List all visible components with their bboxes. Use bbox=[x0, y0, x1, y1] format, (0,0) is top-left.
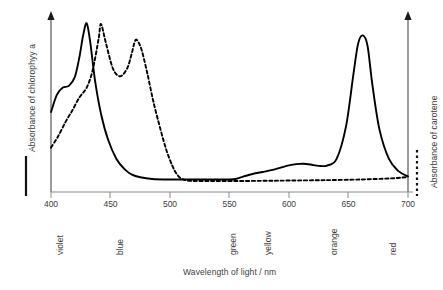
x-tick-label: 550 bbox=[215, 199, 245, 209]
band-label-green: green bbox=[228, 233, 238, 255]
right-y-axis-label: Absorbance of carotene bbox=[429, 96, 439, 188]
x-tick-label: 650 bbox=[334, 199, 364, 209]
band-label-blue: blue bbox=[115, 239, 125, 255]
carotene-curve bbox=[51, 24, 408, 181]
x-axis-label: Wavelength of light / nm bbox=[183, 267, 276, 277]
x-tick-label: 700 bbox=[393, 199, 423, 209]
x-tick-label: 400 bbox=[36, 199, 66, 209]
x-tick-label: 500 bbox=[155, 199, 185, 209]
absorption-spectrum-chart bbox=[0, 0, 443, 290]
band-label-orange: orange bbox=[329, 229, 339, 255]
chlorophyll-a-curve bbox=[51, 23, 408, 179]
x-axis-ticks bbox=[51, 192, 408, 198]
band-label-red: red bbox=[388, 243, 398, 255]
left-y-axis-label: Absorbance of chlorophyy a bbox=[27, 44, 37, 152]
band-label-violet: violet bbox=[55, 235, 65, 255]
band-label-yellow: yellow bbox=[263, 231, 273, 255]
x-tick-label: 600 bbox=[274, 199, 304, 209]
x-axis bbox=[51, 192, 413, 198]
right-y-axis bbox=[404, 11, 411, 192]
x-tick-label: 450 bbox=[96, 199, 126, 209]
